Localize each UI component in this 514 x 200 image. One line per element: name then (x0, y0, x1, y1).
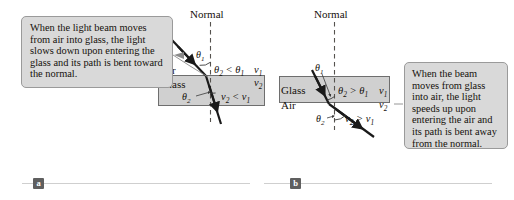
panel-b-normal-label: Normal (314, 8, 348, 20)
panel-b-lower-medium-label: Air (281, 99, 296, 111)
panel-b-speed-relation: v2 > v1 (345, 113, 374, 127)
figure-canvas: When the light beam moves from air into … (0, 0, 514, 200)
panel-b-theta1-label: θ1 (315, 62, 323, 76)
panel-a-theta1-label: θ1 (196, 49, 204, 63)
panel-b-upper-medium-label: Glass (281, 84, 305, 96)
panel-a-angle-relation: θ2 < θ1 (214, 64, 244, 78)
callout-panel-a: When the light beam moves from air into … (21, 16, 173, 88)
panel-a-callout-leader-tail (174, 52, 184, 59)
panel-a-normal-label: Normal (190, 8, 224, 20)
panel-a-speed-lower-label: v2 (254, 77, 262, 91)
panel-b-speed-upper-label: v1 (379, 85, 387, 99)
panel-b-theta1-arc (327, 97, 334, 101)
panel-b-angle-relation: θ2 > θ1 (338, 85, 368, 99)
callout-panel-b: When the beam moves from glass into air,… (404, 62, 508, 149)
panel-b-theta2-label: θ2 (316, 113, 324, 127)
panel-b-incident-ray-arrowhead (315, 76, 324, 93)
panel-b-theta2-pointer (327, 116, 334, 118)
panel-a-speed-upper-label: v1 (254, 64, 262, 78)
panel-a-theta2-label: θ2 (182, 91, 190, 105)
panel-a-theta2-pointer (196, 92, 210, 96)
panel-a-speed-relation: v2 < v1 (221, 91, 250, 105)
panel-b-speed-lower-label: v2 (379, 99, 387, 113)
